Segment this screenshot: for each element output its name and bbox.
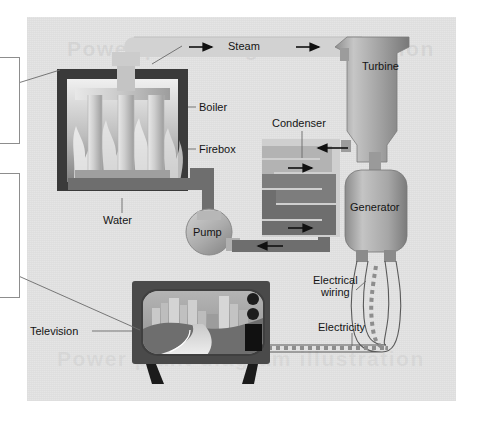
- television: [132, 281, 270, 384]
- label-electrical-wiring: Electrical wiring: [313, 274, 358, 298]
- label-firebox: Firebox: [199, 143, 236, 155]
- callout-bottom[interactable]: [0, 173, 20, 298]
- turbine: [335, 37, 409, 170]
- diagram-stage: Power plant diagram illustration Power p…: [0, 0, 479, 422]
- label-water: Water: [103, 214, 132, 226]
- generator: [345, 170, 407, 262]
- label-condenser: Condenser: [272, 117, 326, 129]
- label-electricity: Electricity: [318, 321, 365, 333]
- label-steam: Steam: [228, 40, 260, 52]
- label-television: Television: [30, 325, 78, 337]
- power-plant-artwork: [0, 0, 479, 422]
- label-boiler: Boiler: [199, 101, 227, 113]
- callout-top[interactable]: [0, 57, 20, 144]
- label-turbine: Turbine: [362, 60, 399, 72]
- label-pump: Pump: [193, 226, 222, 238]
- label-generator: Generator: [350, 201, 400, 213]
